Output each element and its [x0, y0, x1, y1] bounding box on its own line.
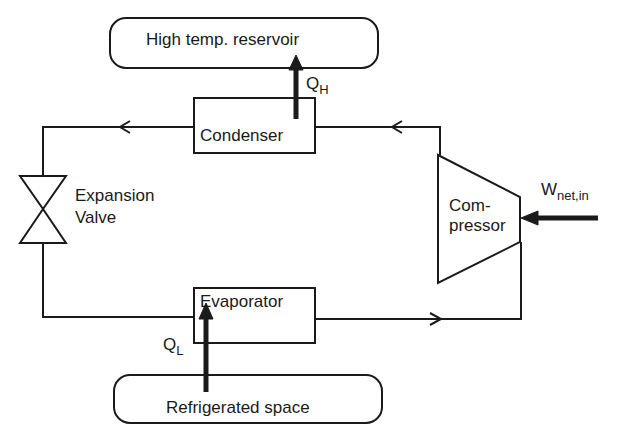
- expansion-valve-label-line1: Expansion: [75, 186, 154, 205]
- expansion-valve-shape: [20, 176, 66, 243]
- refrigerated-space-label: Refrigerated space: [166, 398, 310, 417]
- work-arrowhead-icon: [521, 211, 538, 225]
- work-in-main: W: [541, 180, 557, 199]
- expansion-valve-label-line2: Valve: [75, 208, 116, 227]
- q-high-label: QH: [306, 74, 329, 94]
- compressor-label-line2: pressor: [449, 216, 506, 235]
- condenser-label: Condenser: [200, 126, 283, 145]
- pipe-condenser-to-valve: [43, 127, 194, 176]
- high-temp-reservoir-label: High temp. reservoir: [146, 30, 299, 49]
- q-high-arrowhead-icon: [289, 55, 303, 70]
- q-high-subscript: H: [319, 82, 328, 97]
- pipe-valve-to-evaporator: [43, 243, 194, 317]
- compressor-label-line1: Com-: [449, 196, 491, 215]
- q-high-main: Q: [306, 74, 319, 93]
- pipe-compressor-to-condenser: [315, 127, 440, 155]
- evaporator-label: Evaporator: [200, 292, 283, 311]
- pipe-evaporator-to-compressor: [315, 242, 521, 319]
- work-in-subscript: net,in: [557, 188, 589, 203]
- work-in-label: Wnet,in: [541, 180, 589, 200]
- q-low-main: Q: [163, 335, 176, 354]
- q-low-subscript: L: [176, 343, 183, 358]
- q-low-label: QL: [163, 335, 183, 355]
